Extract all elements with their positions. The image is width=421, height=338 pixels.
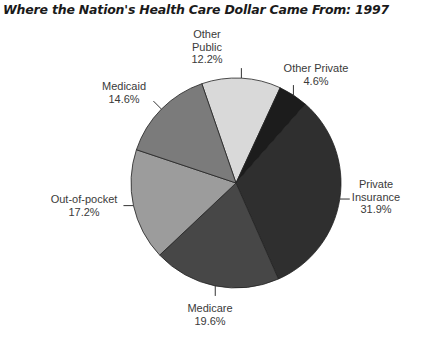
- label-text: Medicaid: [94, 80, 154, 93]
- label-private-insurance: Private Insurance 31.9%: [346, 178, 406, 216]
- label-medicaid: Medicaid 14.6%: [94, 80, 154, 105]
- label-other-private: Other Private 4.6%: [276, 62, 356, 87]
- label-value: 31.9%: [346, 203, 406, 216]
- label-out-of-pocket: Out-of-pocket 17.2%: [46, 193, 122, 218]
- label-value: 17.2%: [46, 206, 122, 219]
- label-other-public: Other Public 12.2%: [172, 28, 242, 66]
- leader-line: [153, 101, 161, 109]
- label-medicare: Medicare 19.6%: [180, 302, 240, 327]
- label-text: Medicare: [180, 302, 240, 315]
- label-text: Other Private: [276, 62, 356, 75]
- label-value: 4.6%: [276, 75, 356, 88]
- label-value: 14.6%: [94, 93, 154, 106]
- label-text: Private: [346, 178, 406, 191]
- label-text: Insurance: [346, 191, 406, 204]
- label-text: Other: [172, 28, 242, 41]
- label-value: 19.6%: [180, 315, 240, 328]
- label-text: Public: [172, 41, 242, 54]
- label-text: Out-of-pocket: [46, 193, 122, 206]
- label-value: 12.2%: [172, 53, 242, 66]
